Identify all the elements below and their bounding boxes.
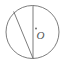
main-circle bbox=[6, 6, 59, 59]
chord bbox=[14, 12, 33, 59]
center-label-o: O bbox=[37, 30, 45, 41]
geometry-figure: O bbox=[0, 0, 70, 67]
geometry-canvas bbox=[0, 0, 70, 67]
